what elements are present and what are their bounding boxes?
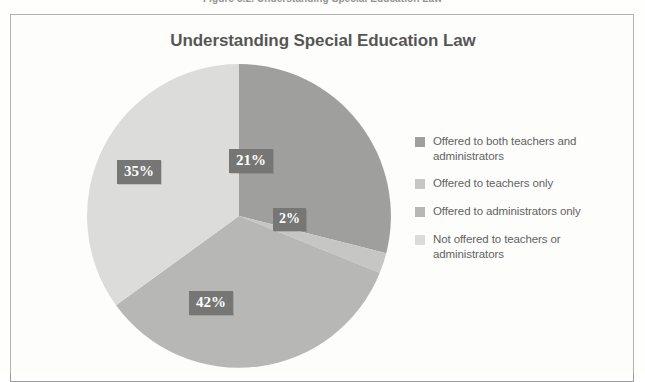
pie-label-42: 42% <box>189 291 233 315</box>
pie-label-35: 35% <box>117 160 161 184</box>
legend-swatch-icon <box>415 137 425 147</box>
figure-caption-strip: Figure 5.2. Understanding Special Educat… <box>0 0 645 13</box>
figure-caption: Figure 5.2. Understanding Special Educat… <box>0 0 645 4</box>
pie-label-2: 2% <box>273 208 306 231</box>
legend-item-teachers-only[interactable]: Offered to teachers only <box>415 176 627 191</box>
figure-frame: Understanding Special Education Law 21% … <box>10 14 634 382</box>
legend-item-label: Offered to administrators only <box>433 204 581 219</box>
legend-item-offered-both[interactable]: Offered to both teachers and administrat… <box>415 134 627 163</box>
pie-chart: 21% 2% 42% 35% <box>86 56 392 376</box>
pie-chart-svg <box>86 56 392 376</box>
legend-item-not-offered[interactable]: Not offered to teachers or administrator… <box>415 232 627 261</box>
legend-item-label: Offered to teachers only <box>433 176 553 191</box>
legend-swatch-icon <box>415 207 425 217</box>
pie-label-21: 21% <box>229 149 273 173</box>
legend-swatch-icon <box>415 235 425 245</box>
legend-item-label: Offered to both teachers and administrat… <box>433 134 627 163</box>
chart-title: Understanding Special Education Law <box>11 31 634 51</box>
legend-swatch-icon <box>415 179 425 189</box>
legend-item-label: Not offered to teachers or administrator… <box>433 232 627 261</box>
chart-legend: Offered to both teachers and administrat… <box>415 134 627 274</box>
legend-item-administrators-only[interactable]: Offered to administrators only <box>415 204 627 219</box>
